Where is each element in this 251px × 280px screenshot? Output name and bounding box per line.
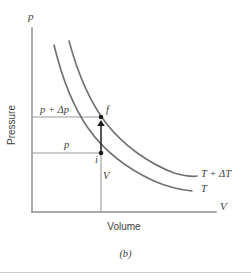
isotherm-curve-cold [54, 45, 192, 191]
y-axis-title: Pressure [7, 95, 17, 155]
pv-diagram-canvas [0, 0, 251, 280]
pressure-high-label: p + Δp [40, 105, 69, 116]
pressure-low-label: p [64, 140, 69, 151]
axis-group [32, 28, 216, 212]
state-point-i-marker [99, 151, 104, 156]
pv-diagram-figure: p V Pressure Volume p + Δp p V f i T + Δ… [0, 0, 251, 280]
x-axis-end-label: V [220, 201, 227, 212]
figure-caption: (b) [0, 249, 251, 260]
isotherm-cold-label: T [201, 184, 207, 195]
caption-divider [0, 272, 251, 273]
state-point-f-marker [99, 115, 104, 120]
x-axis-title: Volume [94, 222, 154, 232]
state-point-f-label: f [106, 105, 109, 116]
isotherm-hot-label: T + ΔT [201, 169, 231, 180]
isotherm-curve-hot [69, 41, 197, 176]
state-point-i-label: i [95, 155, 98, 166]
volume-segment-label: V [103, 171, 109, 182]
isotherm-group [54, 41, 197, 191]
y-axis-end-label: p [28, 11, 34, 22]
